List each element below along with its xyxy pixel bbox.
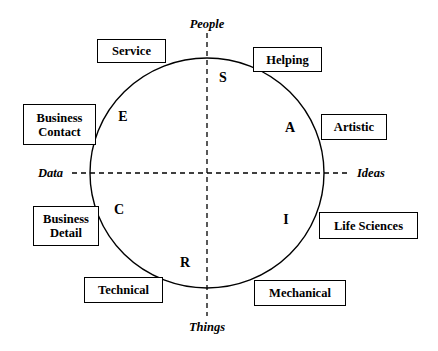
axis-label-people: People [190,18,225,31]
riasec-letter-enterprising: E [118,110,127,124]
label-box-technical: Technical [84,277,163,303]
riasec-letter-realistic: R [180,256,190,270]
label-box-service: Service [97,39,166,63]
riasec-letter-social: S [219,71,227,85]
riasec-letter-conventional: C [114,203,124,217]
riasec-letter-investigative: I [283,213,288,227]
axis-label-data: Data [38,167,63,180]
label-box-life-sciences: Life Sciences [319,212,418,239]
label-box-mechanical: Mechanical [254,280,346,306]
axis-label-things: Things [189,321,225,334]
label-box-business-contact: Business Contact [23,104,96,145]
label-box-helping: Helping [253,47,322,72]
riasec-letter-artistic: A [285,121,295,135]
label-box-business-detail: Business Detail [33,206,99,246]
axis-label-ideas: Ideas [357,167,385,180]
riasec-circle-diagram: People Things Data Ideas S A I R C E Ser… [0,0,438,351]
label-box-artistic: Artistic [321,114,387,140]
